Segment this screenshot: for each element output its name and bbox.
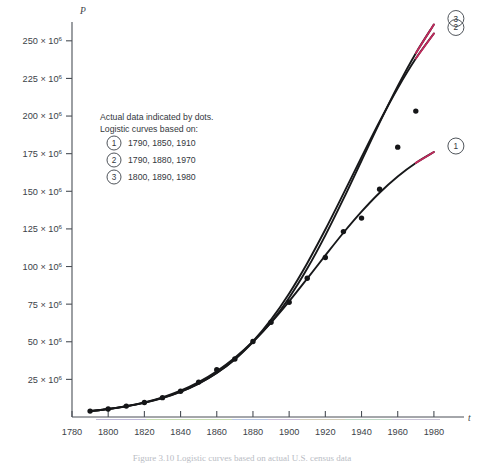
legend-badge-label-3: 3: [112, 173, 117, 182]
curve-badge-label-3: 3: [454, 15, 459, 24]
y-axis-tick-label: 75 × 106: [28, 299, 63, 310]
data-point-dot: [124, 403, 129, 408]
y-axis-tick-label: 225 × 106: [23, 73, 63, 84]
legend-badge-label-1: 1: [112, 139, 117, 148]
x-axis-tick-label: 1980: [424, 427, 444, 437]
x-axis-tick-label: 1840: [170, 427, 190, 437]
x-axis-name: t: [468, 413, 471, 423]
x-axis-tick-label: 1860: [207, 427, 227, 437]
data-point-dot: [87, 408, 92, 413]
data-point-dot: [268, 320, 273, 325]
y-axis-tick-label: 200 × 106: [23, 110, 63, 121]
chart-canvas: 25 × 10650 × 10675 × 106100 × 106125 × 1…: [0, 0, 484, 465]
x-axis-tick-label: 1880: [243, 427, 263, 437]
x-axis-tick-label: 1940: [351, 427, 371, 437]
curve-tail-1: [416, 152, 434, 163]
logistic-curve-1: [90, 152, 434, 411]
legend-line-2: Logistic curves based on:: [100, 124, 198, 134]
data-point-dot: [196, 379, 201, 384]
legend-years-3: 1800, 1890, 1980: [128, 172, 196, 182]
x-axis-tick-label: 1900: [279, 427, 299, 437]
data-point-dot: [232, 356, 237, 361]
y-axis-tick-label: 125 × 106: [23, 223, 63, 234]
data-point-dot: [178, 389, 183, 394]
legend-line-1: Actual data indicated by dots.: [100, 112, 214, 122]
data-point-dot: [395, 144, 400, 149]
x-axis-tick-label: 1800: [98, 427, 118, 437]
data-point-dot: [160, 395, 165, 400]
legend-years-1: 1790, 1850, 1910: [128, 138, 196, 148]
data-point-dot: [341, 229, 346, 234]
data-point-dot: [323, 255, 328, 260]
logistic-curve-2: [90, 33, 434, 411]
x-axis-tick-label: 1780: [62, 427, 82, 437]
x-axis-tick-label: 1960: [387, 427, 407, 437]
data-point-dot: [286, 300, 291, 305]
curve-badge-label-1: 1: [454, 142, 459, 151]
data-point-dot: [413, 108, 418, 113]
x-axis-tick-label: 1920: [315, 427, 335, 437]
legend-badge-label-2: 2: [112, 156, 117, 165]
figure-logistic-population-curves: 25 × 10650 × 10675 × 106100 × 106125 × 1…: [0, 0, 484, 465]
data-point-dot: [105, 406, 110, 411]
data-point-dot: [305, 276, 310, 281]
data-point-dot: [377, 187, 382, 192]
y-axis-tick-label: 50 × 106: [28, 336, 63, 347]
y-axis-tick-label: 175 × 106: [23, 148, 63, 159]
data-point-dot: [142, 400, 147, 405]
y-axis-tick-label: 100 × 106: [23, 261, 63, 272]
curve-badge-label-2: 2: [454, 23, 459, 32]
y-axis-tick-label: 250 × 106: [23, 35, 63, 46]
figure-caption: Figure 3.10 Logistic curves based on act…: [133, 453, 351, 463]
legend-years-2: 1790, 1880, 1970: [128, 155, 196, 165]
y-axis-name: P: [79, 6, 86, 16]
data-point-dot: [214, 367, 219, 372]
y-axis-tick-label: 150 × 106: [23, 186, 63, 197]
data-point-dot: [359, 215, 364, 220]
y-axis-tick-label: 25 × 106: [28, 374, 63, 385]
x-axis-tick-label: 1820: [134, 427, 154, 437]
data-point-dot: [250, 339, 255, 344]
logistic-curve-3: [90, 25, 434, 412]
